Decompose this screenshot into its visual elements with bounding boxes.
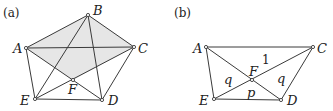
panel-a-label: (a) — [3, 6, 20, 20]
label-e: E — [19, 93, 30, 108]
label-c: C — [317, 41, 327, 56]
label-d: D — [286, 93, 298, 108]
point-a — [24, 46, 27, 49]
figure: (a) B A C E D F (b) — [0, 0, 333, 111]
label-b: B — [92, 3, 103, 18]
point-c — [132, 45, 135, 48]
label-e: E — [198, 93, 209, 108]
region-label-afe: q — [224, 72, 232, 87]
point-c — [311, 45, 314, 48]
point-e — [33, 97, 36, 100]
label-f: F — [248, 64, 259, 79]
panel-b-label: (b) — [174, 6, 191, 20]
label-d: D — [107, 93, 119, 108]
edge-ed — [35, 99, 102, 100]
region-label-efd: p — [247, 85, 256, 100]
point-b — [86, 13, 89, 16]
region-label-afc: 1 — [262, 53, 270, 67]
edge-ae — [26, 48, 35, 99]
edge-ad — [206, 47, 281, 100]
label-f: F — [67, 82, 78, 97]
label-c: C — [138, 41, 148, 56]
label-a: A — [192, 41, 202, 56]
point-d — [279, 98, 282, 101]
point-e — [212, 97, 215, 100]
point-a — [204, 45, 207, 48]
region-label-cfd: q — [277, 71, 285, 86]
panel-a: (a) B A C E D F — [3, 3, 148, 108]
edge-ae — [206, 47, 214, 99]
panel-b: (b) A C E D F 1 q q p — [174, 6, 327, 108]
label-a: A — [12, 41, 22, 56]
point-d — [100, 98, 103, 101]
